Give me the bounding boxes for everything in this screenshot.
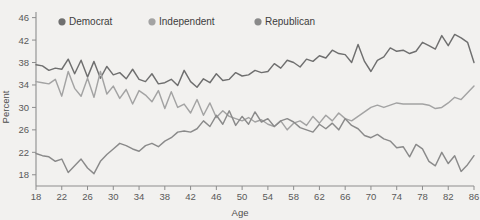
x-tick-label: 62 xyxy=(314,191,325,202)
x-tick-label: 30 xyxy=(108,191,119,202)
y-tick-label: 30 xyxy=(18,102,29,113)
x-axis-title: Age xyxy=(232,207,249,218)
legend-dot-marker-republican xyxy=(254,18,261,25)
x-tick-label: 18 xyxy=(31,191,42,202)
x-tick-label: 38 xyxy=(160,191,171,202)
x-tick-group: 182226303438424650545862667074788286 xyxy=(31,186,480,202)
x-tick-label: 58 xyxy=(288,191,299,202)
x-tick-label: 46 xyxy=(211,191,222,202)
legend-label-independent: Independent xyxy=(159,16,215,27)
y-tick-label: 22 xyxy=(18,147,29,158)
y-tick-group: 1822263034384246 xyxy=(18,12,36,180)
chart-legend: DemocratIndependentRepublican xyxy=(58,16,315,27)
x-tick-label: 22 xyxy=(56,191,67,202)
y-tick-label: 26 xyxy=(18,124,29,135)
y-axis: 1822263034384246 xyxy=(18,12,36,186)
line-chart: 1822263034384246 18222630343842465054586… xyxy=(0,0,480,220)
x-tick-label: 66 xyxy=(340,191,351,202)
x-tick-label: 54 xyxy=(263,191,274,202)
y-tick-label: 46 xyxy=(18,12,29,23)
series-group xyxy=(36,34,474,173)
y-tick-label: 42 xyxy=(18,35,29,46)
x-tick-label: 74 xyxy=(391,191,402,202)
legend-label-democrat: Democrat xyxy=(69,16,113,27)
x-tick-label: 42 xyxy=(185,191,196,202)
y-tick-label: 34 xyxy=(18,79,29,90)
x-tick-label: 34 xyxy=(134,191,145,202)
x-tick-label: 78 xyxy=(417,191,428,202)
series-line-independent xyxy=(36,72,474,130)
x-tick-label: 86 xyxy=(469,191,480,202)
series-line-republican xyxy=(36,111,474,174)
x-tick-label: 82 xyxy=(443,191,454,202)
series-line-democrat xyxy=(36,34,474,87)
y-tick-label: 18 xyxy=(18,169,29,180)
x-tick-label: 26 xyxy=(82,191,93,202)
y-tick-label: 38 xyxy=(18,57,29,68)
x-tick-label: 50 xyxy=(237,191,248,202)
legend-dot-marker-independent xyxy=(148,18,155,25)
legend-label-republican: Republican xyxy=(265,16,315,27)
x-tick-label: 70 xyxy=(366,191,377,202)
chart-container: 1822263034384246 18222630343842465054586… xyxy=(0,0,480,220)
y-axis-title: Percent xyxy=(0,90,11,123)
legend-dot-marker-democrat xyxy=(58,18,65,25)
x-axis: 182226303438424650545862667074788286 xyxy=(31,186,480,202)
